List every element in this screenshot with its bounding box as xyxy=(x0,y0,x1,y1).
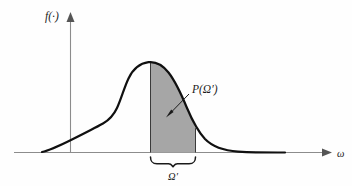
interval-brace xyxy=(151,157,196,167)
y-axis-label: f(·) xyxy=(45,10,59,23)
y-axis-group xyxy=(67,12,75,153)
x-axis-arrowhead xyxy=(322,149,332,157)
density-figure: f(·) ω P(Ω′) Ω′ xyxy=(0,0,352,186)
x-axis-label: ω xyxy=(337,148,344,159)
shaded-area-label: P(Ω′) xyxy=(191,83,218,96)
interval-label: Ω′ xyxy=(168,171,179,182)
figure-container: f(·) ω P(Ω′) Ω′ xyxy=(0,0,352,186)
y-axis-arrowhead xyxy=(67,12,75,22)
shaded-probability-region xyxy=(151,63,196,153)
